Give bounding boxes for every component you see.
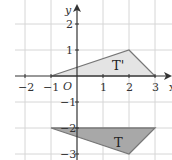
y-tick-label: −1 <box>60 96 76 109</box>
y-tick-label: 1 <box>66 44 73 57</box>
x-tick-label: 3 <box>152 81 159 94</box>
t-prime-label: T' <box>112 58 124 73</box>
t-label: T <box>114 135 123 150</box>
x-tick-label: −1 <box>43 81 59 94</box>
x-axis-label: x <box>169 81 172 94</box>
x-tick-label: −2 <box>18 81 34 94</box>
y-tick-label: −3 <box>60 148 76 160</box>
x-tick-label: 1 <box>100 81 107 94</box>
y-tick-label: 2 <box>66 18 73 31</box>
x-tick-label: 2 <box>126 81 133 94</box>
origin-label: O <box>63 80 72 93</box>
coordinate-plane: y x O −2 −1 1 2 3 2 1 −1 −2 −3 T' T <box>0 0 172 160</box>
y-axis-label: y <box>64 4 72 17</box>
y-tick-label: −2 <box>60 122 76 135</box>
